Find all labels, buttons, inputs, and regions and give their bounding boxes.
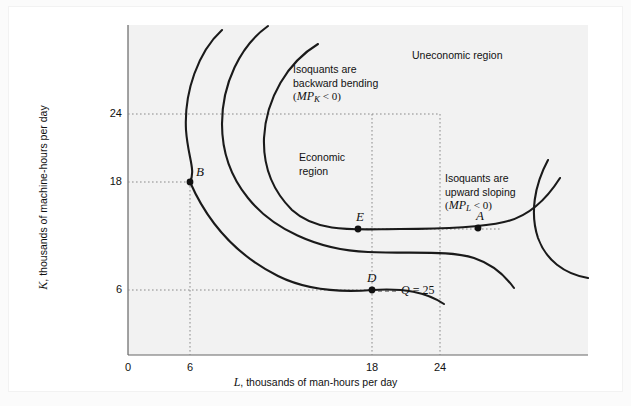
y-tick-6: 6 bbox=[100, 283, 122, 295]
upward-sloping-line1: Isoquants are bbox=[445, 172, 516, 186]
x-tick-18: 18 bbox=[361, 361, 383, 373]
y-axis-variable: K bbox=[36, 282, 50, 290]
isoquant-output-label: Q = 25 bbox=[401, 283, 434, 298]
annotation-uneconomic-region: Uneconomic region bbox=[412, 49, 502, 63]
q-equals: = bbox=[410, 283, 423, 297]
q-value: 25 bbox=[422, 283, 434, 297]
point-marker-B[interactable] bbox=[187, 179, 194, 186]
point-marker-A[interactable] bbox=[475, 225, 482, 232]
figure-container: 24 18 6 0 6 18 24 L, thousands of man-ho… bbox=[0, 0, 631, 406]
point-label-D: D bbox=[367, 270, 376, 286]
x-axis-title: L, thousands of man-hours per day bbox=[0, 375, 631, 390]
x-tick-6: 6 bbox=[179, 361, 201, 373]
annotation-economic-region: Economic region bbox=[299, 151, 345, 178]
point-marker-D[interactable] bbox=[369, 287, 376, 294]
y-axis-title: K, thousands of machine-hours per day bbox=[36, 68, 51, 328]
backward-bending-line1: Isoquants are bbox=[293, 63, 378, 77]
mp-symbol: MP bbox=[297, 89, 314, 103]
mp-symbol-l: MP bbox=[449, 198, 466, 212]
mp-condition-l: < 0) bbox=[471, 199, 492, 211]
y-tick-24: 24 bbox=[100, 107, 122, 119]
point-marker-E[interactable] bbox=[355, 226, 362, 233]
x-tick-24: 24 bbox=[429, 361, 451, 373]
isoquant-chart bbox=[0, 0, 631, 406]
uneconomic-region-text: Uneconomic region bbox=[412, 49, 502, 63]
economic-region-line2: region bbox=[299, 165, 345, 179]
annotation-upward-sloping: Isoquants are upward sloping (MPL < 0) bbox=[445, 172, 516, 216]
backward-bending-line3: (MPK < 0) bbox=[293, 90, 378, 107]
y-axis-title-text: , thousands of machine-hours per day bbox=[37, 105, 49, 281]
upward-sloping-line3: (MPL < 0) bbox=[445, 199, 516, 216]
q-variable: Q bbox=[401, 283, 410, 297]
annotation-backward-bending: Isoquants are backward bending (MPK < 0) bbox=[293, 63, 378, 107]
upward-sloping-line2: upward sloping bbox=[445, 186, 516, 200]
point-label-B: B bbox=[196, 164, 204, 180]
x-axis-title-text: , thousands of man-hours per day bbox=[240, 376, 397, 388]
x-tick-0: 0 bbox=[117, 361, 139, 373]
mp-condition: < 0) bbox=[320, 90, 341, 102]
y-tick-18: 18 bbox=[100, 175, 122, 187]
economic-region-line1: Economic bbox=[299, 151, 345, 165]
point-label-E: E bbox=[356, 209, 364, 225]
backward-bending-line2: backward bending bbox=[293, 77, 378, 91]
